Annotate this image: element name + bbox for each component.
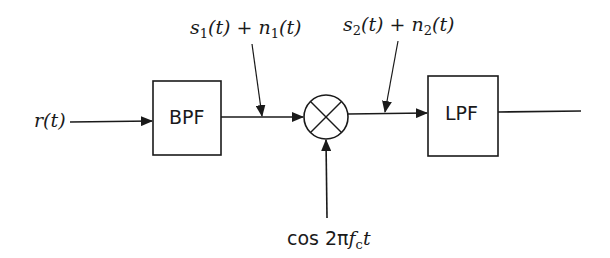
f-symbol: f xyxy=(349,227,356,249)
n1-arg: (t) xyxy=(279,16,301,38)
s1-symbol: s xyxy=(190,16,200,38)
t-symbol: t xyxy=(363,227,371,249)
n2-arg: (t) xyxy=(432,13,454,35)
bpf-label-text: BPF xyxy=(169,106,204,128)
s1-pointer-arrow xyxy=(252,44,262,116)
oscillator-to-mixer-line xyxy=(326,140,327,218)
s2-symbol: s xyxy=(343,13,353,35)
input-signal-line xyxy=(70,121,152,122)
s2-arg: (t) + xyxy=(361,13,411,35)
output-signal-line xyxy=(498,111,581,112)
s1-n1-annotation: s1(t) + n1(t) xyxy=(190,18,302,40)
input-label-text: r(t) xyxy=(34,109,66,131)
lpf-label: LPF xyxy=(445,104,478,123)
n1-subscript: 1 xyxy=(271,26,279,41)
n1-symbol: n xyxy=(259,16,271,38)
cos-text: cos xyxy=(287,227,325,249)
input-label: r(t) xyxy=(34,111,66,130)
s2-n2-annotation: s2(t) + n2(t) xyxy=(343,15,455,37)
s1-subscript: 1 xyxy=(200,26,208,41)
fc-subscript: c xyxy=(356,237,363,252)
lpf-label-text: LPF xyxy=(445,102,478,124)
oscillator-label: cos 2πfct xyxy=(287,229,371,251)
bpf-label: BPF xyxy=(169,108,204,127)
n2-symbol: n xyxy=(412,13,424,35)
mixer-to-lpf-line xyxy=(348,113,427,114)
n2-subscript: 2 xyxy=(424,23,432,38)
s2-subscript: 2 xyxy=(353,23,361,38)
mixer-multiplier-icon xyxy=(304,95,348,139)
two-pi-text: 2π xyxy=(325,227,349,249)
s1-arg: (t) + xyxy=(208,16,258,38)
s2-pointer-arrow xyxy=(385,41,398,112)
block-diagram-canvas xyxy=(0,0,610,258)
